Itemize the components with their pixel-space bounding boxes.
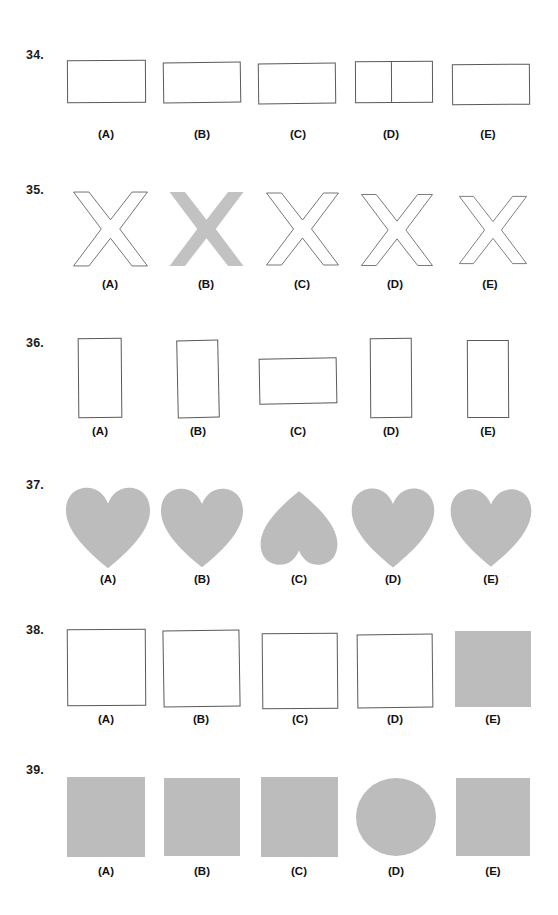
option-35-D[interactable] — [360, 190, 434, 270]
figure-square — [67, 629, 147, 707]
question-row-36: 36. (A) (B) (C) (D) (E) — [0, 330, 558, 445]
figure-square-filled — [164, 778, 240, 856]
figure-circle-filled — [356, 778, 436, 856]
option-label-37-E: (E) — [461, 573, 521, 585]
question-row-38: 38. (A) (B) (C) (D) (E) — [0, 615, 558, 730]
option-label-37-A: (A) — [78, 573, 138, 585]
figure-rectangle-vertical — [176, 340, 220, 419]
option-label-39-E: (E) — [463, 865, 523, 877]
option-label-37-B: (B) — [172, 573, 232, 585]
option-37-B[interactable] — [158, 487, 246, 569]
figure-square-filled — [67, 777, 145, 857]
figure-x-solid — [168, 188, 245, 270]
figure-square-filled — [261, 777, 338, 857]
option-35-B[interactable] — [168, 188, 245, 270]
option-label-34-B: (B) — [172, 128, 232, 140]
figure-heart — [158, 487, 246, 569]
figure-x-outline — [360, 190, 434, 270]
option-label-38-A: (A) — [76, 713, 136, 725]
option-label-38-C: (C) — [270, 713, 330, 725]
question-number-38: 38. — [26, 623, 44, 637]
option-label-39-D: (D) — [366, 865, 426, 877]
figure-x-outline — [72, 188, 149, 270]
option-label-38-D: (D) — [365, 713, 425, 725]
option-35-C[interactable] — [265, 188, 340, 270]
option-label-35-A: (A) — [80, 278, 140, 290]
option-37-C[interactable] — [259, 487, 339, 569]
figure-heart-inverted — [259, 487, 339, 569]
option-label-34-D: (D) — [361, 128, 421, 140]
option-35-A[interactable] — [72, 188, 149, 270]
figure-rectangle-divided — [355, 61, 433, 103]
figure-square — [162, 629, 240, 707]
option-35-E[interactable] — [458, 190, 528, 270]
option-label-35-E: (E) — [460, 278, 520, 290]
question-number-37: 37. — [26, 478, 44, 492]
worksheet-page: 34. (A) (B) (C) (D) (E) 35. — [0, 0, 558, 915]
figure-rectangle-vertical — [78, 338, 123, 418]
option-37-D[interactable] — [350, 486, 436, 570]
figure-rectangle — [163, 61, 242, 103]
question-number-34: 34. — [26, 48, 44, 62]
figure-square — [262, 633, 339, 710]
figure-heart — [64, 486, 152, 570]
option-label-39-A: (A) — [76, 865, 136, 877]
figure-x-outline — [265, 188, 340, 270]
option-label-35-C: (C) — [272, 278, 332, 290]
question-row-39: 39. (A) (B) (C) (D) (E) — [0, 755, 558, 875]
option-label-36-D: (D) — [361, 425, 421, 437]
question-number-35: 35. — [26, 183, 44, 197]
option-label-35-B: (B) — [176, 278, 236, 290]
option-label-39-C: (C) — [269, 865, 329, 877]
figure-rectangle-horizontal — [259, 357, 338, 404]
figure-heart — [449, 486, 533, 570]
option-label-34-E: (E) — [458, 128, 518, 140]
option-label-36-A: (A) — [70, 425, 130, 437]
figure-square — [357, 634, 434, 709]
option-37-A[interactable] — [64, 486, 152, 570]
figure-rectangle — [452, 64, 530, 106]
figure-heart — [350, 486, 436, 570]
option-label-35-D: (D) — [365, 278, 425, 290]
option-label-36-C: (C) — [268, 425, 328, 437]
figure-rectangle-vertical — [370, 338, 413, 418]
option-label-39-B: (B) — [172, 865, 232, 877]
question-row-34: 34. (A) (B) (C) (D) (E) — [0, 40, 558, 150]
figure-rectangle-vertical — [467, 340, 509, 418]
divider-line — [391, 62, 392, 102]
option-label-38-B: (B) — [171, 713, 231, 725]
option-label-37-C: (C) — [269, 573, 329, 585]
option-label-34-C: (C) — [268, 128, 328, 140]
option-label-37-D: (D) — [363, 573, 423, 585]
figure-square-filled — [456, 778, 530, 856]
figure-rectangle — [67, 60, 146, 104]
option-label-38-E: (E) — [463, 713, 523, 725]
question-number-36: 36. — [26, 336, 44, 350]
question-row-35: 35. (A) (B) (C) ( — [0, 180, 558, 310]
option-label-36-E: (E) — [458, 425, 518, 437]
option-label-34-A: (A) — [76, 128, 136, 140]
option-37-E[interactable] — [449, 486, 533, 570]
figure-x-outline — [458, 190, 528, 270]
question-number-39: 39. — [26, 763, 44, 777]
figure-square-filled — [455, 631, 531, 707]
question-row-37: 37. (A) (B) (C) ( — [0, 472, 558, 590]
option-label-36-B: (B) — [168, 425, 228, 437]
figure-rectangle — [258, 63, 336, 105]
